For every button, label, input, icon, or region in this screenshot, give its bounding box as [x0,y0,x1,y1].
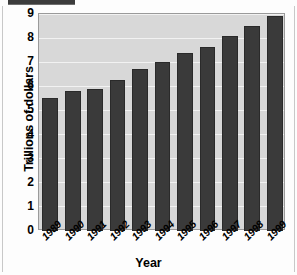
x-axis-title: Year [0,256,297,270]
y-tick-label: 7 [16,54,34,68]
bar [200,47,216,231]
bar [110,80,126,231]
y-tick-label: 1 [16,199,34,213]
plot-area [38,13,285,230]
bar [267,16,283,231]
y-tick-label: 5 [16,102,34,116]
y-tick-label: 6 [16,78,34,92]
y-tick-label: 3 [16,151,34,165]
bar [155,62,171,231]
bar [177,53,193,231]
bar [244,26,260,231]
bar-chart-figure: Trillions of dollars 0123456789 Year 198… [0,0,297,275]
bar [65,91,81,231]
y-tick-label: 8 [16,30,34,44]
bar [42,98,58,231]
bar [87,89,103,231]
bar [132,69,148,231]
y-tick-label: 4 [16,127,34,141]
y-tick-label: 9 [16,6,34,20]
y-tick-label: 0 [16,223,34,237]
y-tick-label: 2 [16,175,34,189]
gridline [39,14,284,15]
bar [222,36,238,231]
